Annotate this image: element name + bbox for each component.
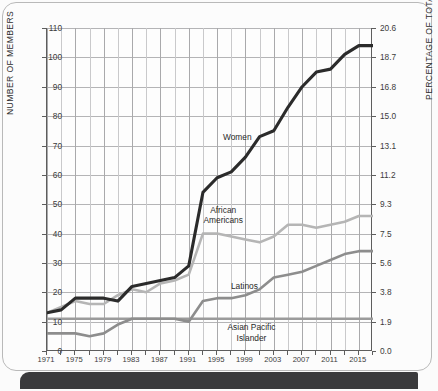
y-tick-mark	[42, 322, 46, 323]
secondary-y-axis-title: PERCENTAGE OF TOTAL MEMBERS	[424, 0, 434, 100]
caption-bar	[20, 372, 418, 389]
annotation-line: Americans	[203, 215, 243, 225]
secondary-y-tick-mark	[372, 322, 376, 323]
secondary-y-tick-label: 11.2	[380, 170, 414, 180]
secondary-y-tick-mark	[372, 87, 376, 88]
secondary-y-tick-mark	[372, 204, 376, 205]
secondary-y-tick-mark	[372, 57, 376, 58]
secondary-y-tick-label: 3.8	[380, 287, 414, 297]
y-tick-mark	[42, 87, 46, 88]
annotation-asian-pacific-islander: Asian PacificIslander	[217, 322, 287, 343]
y-tick-mark	[42, 57, 46, 58]
secondary-y-tick-mark	[372, 175, 376, 176]
secondary-y-tick-label: 9.3	[380, 199, 414, 209]
x-tick-label: 2015	[341, 355, 375, 364]
secondary-y-tick-label: 5.6	[380, 258, 414, 268]
y-tick-mark	[42, 234, 46, 235]
secondary-y-tick-label: 15.0	[380, 111, 414, 121]
annotation-women: Women	[202, 132, 272, 143]
annotation-line: Women	[223, 132, 252, 142]
series-line-latinos	[47, 251, 373, 336]
y-axis-title: NUMBER OF MEMBERS	[5, 11, 15, 115]
secondary-y-tick-mark	[372, 28, 376, 29]
annotation-line: African	[210, 205, 236, 215]
y-tick-mark	[42, 146, 46, 147]
secondary-y-tick-label: 20.6	[380, 23, 414, 33]
secondary-y-tick-label: 1.9	[380, 317, 414, 327]
series-layer	[47, 28, 371, 350]
secondary-y-tick-mark	[372, 234, 376, 235]
y-tick-mark	[42, 28, 46, 29]
annotation-line: Latinos	[231, 281, 258, 291]
annotation-latinos: Latinos	[209, 281, 279, 292]
secondary-y-tick-label: 13.1	[380, 141, 414, 151]
series-line-women	[47, 46, 373, 313]
chart-page: NUMBER OF MEMBERS PERCENTAGE OF TOTAL ME…	[0, 0, 438, 391]
secondary-y-tick-label: 16.8	[380, 82, 414, 92]
secondary-y-tick-mark	[372, 263, 376, 264]
secondary-y-tick-mark	[372, 116, 376, 117]
annotation-line: Islander	[237, 333, 267, 343]
secondary-y-tick-label: 7.5	[380, 229, 414, 239]
y-tick-mark	[42, 175, 46, 176]
y-tick-mark	[42, 292, 46, 293]
y-tick-mark	[42, 263, 46, 264]
annotation-african-americans: AfricanAmericans	[188, 205, 258, 226]
y-tick-mark	[42, 116, 46, 117]
y-tick-mark	[42, 204, 46, 205]
annotation-line: Asian Pacific	[228, 322, 276, 332]
secondary-y-tick-label: 0.0	[380, 346, 414, 356]
secondary-y-tick-mark	[372, 292, 376, 293]
secondary-y-tick-label: 18.7	[380, 52, 414, 62]
line-series-svg	[47, 28, 373, 351]
plot-area	[46, 28, 372, 351]
secondary-y-tick-mark	[372, 146, 376, 147]
